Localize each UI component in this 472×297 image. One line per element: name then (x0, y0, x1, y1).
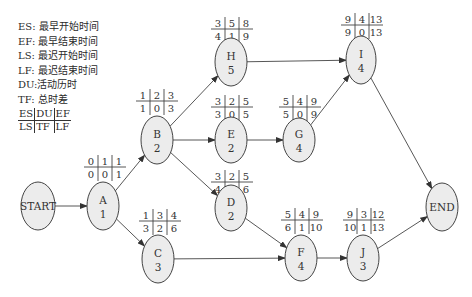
value-lf: 13 (372, 222, 385, 233)
node-c: C3 (142, 235, 174, 283)
node-b: B2 (141, 116, 173, 164)
node-label: I (359, 48, 363, 60)
value-ef: 13 (370, 14, 383, 25)
value-es: 3 (215, 18, 221, 29)
node-duration: 2 (228, 142, 235, 154)
value-tf: 0 (154, 103, 160, 114)
value-ef: 3 (168, 90, 174, 101)
node-f: F4 (285, 235, 317, 281)
value-es: 1 (143, 210, 149, 221)
nodes: STARTA1B2C3H5E2D2G4F4I4J3END (20, 36, 458, 283)
time-table-b: 123103 (136, 89, 178, 115)
node-duration: 3 (155, 261, 162, 273)
edge-j-end (378, 216, 428, 248)
value-ls: 3 (215, 109, 221, 120)
value-ls: 1 (140, 103, 146, 114)
value-du: 4 (297, 96, 303, 107)
value-es: 3 (215, 171, 221, 182)
value-es: 5 (283, 96, 289, 107)
node-label: H (226, 50, 235, 62)
value-du: 5 (229, 18, 235, 29)
value-ls: 10 (344, 222, 357, 233)
value-du: 4 (359, 14, 365, 25)
time-table-g: 549509 (279, 95, 321, 121)
node-label: E (227, 128, 235, 140)
node-start: START (20, 182, 56, 230)
node-duration: 2 (228, 210, 235, 222)
value-es: 5 (285, 209, 291, 220)
edge-h-i (247, 60, 346, 62)
node-label: D (227, 196, 235, 208)
value-lf: 1 (116, 169, 122, 180)
value-lf: 5 (243, 109, 249, 120)
time-table-c: 134326 (139, 209, 181, 235)
edge-b-d (171, 153, 218, 196)
value-ef: 12 (372, 209, 385, 220)
node-label: C (154, 247, 162, 259)
value-lf: 9 (243, 31, 249, 42)
node-d: D2 (215, 185, 247, 231)
value-ls: 9 (345, 27, 351, 38)
node-a: A1 (87, 182, 119, 230)
node-label: J (360, 246, 365, 258)
value-tf: 1 (361, 222, 367, 233)
value-ef: 9 (311, 96, 317, 107)
node-duration: 1 (100, 208, 107, 220)
node-e: E2 (215, 117, 247, 163)
value-ls: 5 (283, 109, 289, 120)
node-duration: 4 (296, 142, 303, 154)
edge-c-f (174, 258, 285, 259)
node-h: H5 (215, 38, 247, 86)
node-j: J3 (347, 235, 379, 281)
value-du: 2 (229, 96, 235, 107)
value-ef: 9 (313, 209, 319, 220)
time-table-j: 931210113 (343, 208, 385, 234)
value-du: 3 (361, 209, 367, 220)
node-label: B (153, 128, 161, 140)
value-es: 9 (347, 209, 353, 220)
edge-i-end (371, 78, 432, 188)
value-ef: 8 (243, 18, 249, 29)
value-du: 2 (229, 171, 235, 182)
value-ef: 5 (243, 96, 249, 107)
value-lf: 10 (310, 222, 323, 233)
node-duration: 2 (154, 142, 161, 154)
value-du: 1 (102, 156, 108, 167)
edge-a-c (116, 219, 144, 246)
edge-d-f (245, 218, 286, 248)
node-duration: 4 (298, 260, 305, 272)
network-diagram: 0110011231031343263584193253053254165495… (0, 0, 472, 297)
value-lf: 13 (370, 27, 383, 38)
value-lf: 3 (168, 103, 174, 114)
node-label: F (297, 246, 304, 258)
value-ls: 4 (215, 31, 221, 42)
value-ef: 4 (171, 210, 177, 221)
node-label: START (20, 200, 56, 212)
value-tf: 1 (299, 222, 305, 233)
value-tf: 0 (102, 169, 108, 180)
value-ls: 0 (88, 169, 94, 180)
time-table-f: 5496110 (281, 208, 323, 234)
value-es: 9 (345, 14, 351, 25)
value-ef: 1 (116, 156, 122, 167)
node-label: G (295, 128, 303, 140)
node-duration: 3 (360, 260, 367, 272)
value-ls: 6 (285, 222, 291, 233)
time-table-i: 94139013 (341, 13, 383, 39)
value-ef: 5 (243, 171, 249, 182)
value-ls: 3 (143, 223, 149, 234)
node-i: I4 (346, 36, 376, 84)
time-table-a: 011001 (84, 155, 126, 181)
value-du: 2 (154, 90, 160, 101)
node-duration: 5 (228, 64, 235, 76)
value-es: 3 (215, 96, 221, 107)
node-duration: 4 (358, 62, 365, 74)
node-end: END (426, 183, 458, 231)
value-es: 0 (88, 156, 94, 167)
value-lf: 9 (311, 109, 317, 120)
value-du: 4 (299, 209, 305, 220)
value-du: 3 (157, 210, 163, 221)
value-lf: 6 (171, 223, 177, 234)
node-label: A (98, 194, 107, 206)
value-tf: 2 (157, 223, 163, 234)
